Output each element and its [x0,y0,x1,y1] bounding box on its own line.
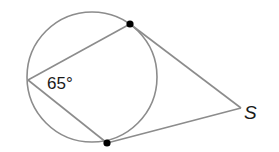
point-top [126,20,133,27]
geometry-diagram: 65° S [0,0,279,152]
tangent-lower [107,108,241,143]
point-s-label: S [244,102,257,123]
point-bottom [103,139,110,146]
tangent-upper [130,24,241,108]
chord-upper [28,24,130,80]
angle-label: 65° [47,74,73,93]
